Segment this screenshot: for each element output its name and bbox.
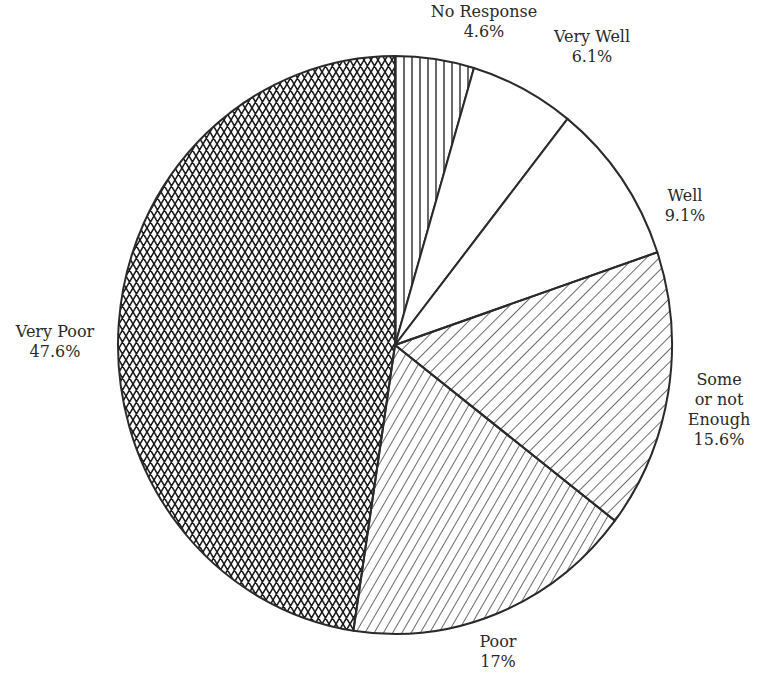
label-some-line1: Some — [679, 370, 759, 390]
pie-slices — [118, 56, 672, 634]
label-well-value: 9.1% — [655, 206, 715, 226]
pie-slice-very-poor — [118, 56, 395, 631]
label-well: Well 9.1% — [655, 186, 715, 226]
label-very-well: Very Well 6.1% — [547, 27, 637, 67]
label-some-or-not-enough: Some or not Enough 15.6% — [679, 370, 759, 450]
label-some-line3: Enough — [679, 410, 759, 430]
label-very-well-name: Very Well — [547, 27, 637, 47]
label-well-name: Well — [655, 186, 715, 206]
label-no-response-value: 4.6% — [429, 22, 539, 42]
pie-chart — [0, 0, 765, 686]
label-very-poor-value: 47.6% — [10, 342, 100, 362]
label-very-well-value: 6.1% — [547, 47, 637, 67]
label-no-response: No Response 4.6% — [429, 2, 539, 42]
label-very-poor-name: Very Poor — [10, 322, 100, 342]
label-poor-value: 17% — [468, 652, 528, 672]
label-some-line2: or not — [679, 390, 759, 410]
label-some-value: 15.6% — [679, 430, 759, 450]
label-no-response-name: No Response — [429, 2, 539, 22]
label-poor-name: Poor — [468, 632, 528, 652]
label-poor: Poor 17% — [468, 632, 528, 672]
label-very-poor: Very Poor 47.6% — [10, 322, 100, 362]
